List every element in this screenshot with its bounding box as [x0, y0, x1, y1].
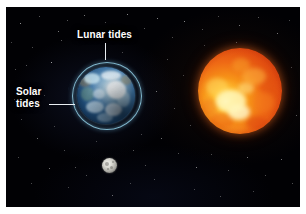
- solar-tides-label: Solar tides: [16, 86, 60, 110]
- star: [75, 167, 76, 168]
- star: [112, 195, 113, 196]
- star: [253, 191, 254, 192]
- star: [291, 67, 292, 68]
- star: [196, 167, 197, 168]
- earth-group: [68, 57, 144, 133]
- star: [211, 154, 212, 155]
- star: [292, 183, 293, 184]
- star: [277, 33, 278, 34]
- star: [167, 59, 168, 60]
- star: [32, 47, 33, 48]
- star: [247, 157, 248, 158]
- star: [145, 165, 146, 166]
- star: [183, 75, 184, 76]
- star: [161, 138, 162, 139]
- star: [14, 99, 15, 100]
- star: [49, 168, 50, 169]
- moon-body: [102, 158, 117, 173]
- star: [204, 45, 205, 46]
- star: [61, 40, 62, 41]
- star: [144, 28, 145, 29]
- lunar-tides-label: Lunar tides: [77, 29, 132, 40]
- star: [96, 141, 97, 142]
- star: [236, 42, 237, 43]
- star: [172, 37, 173, 38]
- star: [68, 187, 69, 188]
- moon-crater: [107, 168, 109, 170]
- star: [39, 16, 40, 17]
- star: [228, 170, 229, 171]
- star: [141, 134, 142, 135]
- star: [296, 115, 297, 116]
- star: [281, 159, 282, 160]
- star: [133, 150, 134, 151]
- star: [127, 14, 128, 15]
- star: [67, 20, 68, 21]
- star: [11, 42, 12, 43]
- moon-crater: [112, 161, 114, 163]
- star: [31, 183, 32, 184]
- star: [178, 153, 179, 154]
- star: [184, 21, 185, 22]
- moon-crater: [105, 162, 109, 166]
- star: [51, 62, 52, 63]
- star: [122, 52, 123, 53]
- star: [258, 17, 259, 18]
- earth-terminator-shading: [77, 67, 135, 124]
- star: [37, 138, 38, 139]
- moon-crater: [110, 166, 113, 169]
- earth-body: [77, 67, 135, 124]
- star: [58, 31, 59, 32]
- star: [202, 29, 203, 30]
- star: [21, 119, 22, 120]
- star: [157, 18, 158, 19]
- star: [174, 108, 175, 109]
- star: [220, 196, 221, 197]
- star: [105, 22, 106, 23]
- lunar-tides-leader-line: [105, 43, 106, 60]
- star: [130, 183, 131, 184]
- star: [194, 189, 195, 190]
- star: [86, 175, 87, 176]
- star: [218, 16, 219, 17]
- star: [156, 91, 157, 92]
- sun-limb-darkening: [198, 48, 282, 134]
- star: [26, 65, 27, 66]
- star: [15, 69, 16, 70]
- star: [20, 23, 21, 24]
- star: [64, 150, 65, 151]
- sun-body: [198, 48, 282, 134]
- space-scene: Lunar tides Solar tides: [6, 7, 300, 207]
- star: [289, 20, 290, 21]
- tides-diagram-figure: Lunar tides Solar tides: [0, 0, 306, 214]
- star: [190, 125, 191, 126]
- star: [239, 25, 240, 26]
- star: [54, 126, 55, 127]
- star: [265, 175, 266, 176]
- star: [154, 179, 155, 180]
- star: [84, 15, 85, 16]
- star: [18, 157, 19, 158]
